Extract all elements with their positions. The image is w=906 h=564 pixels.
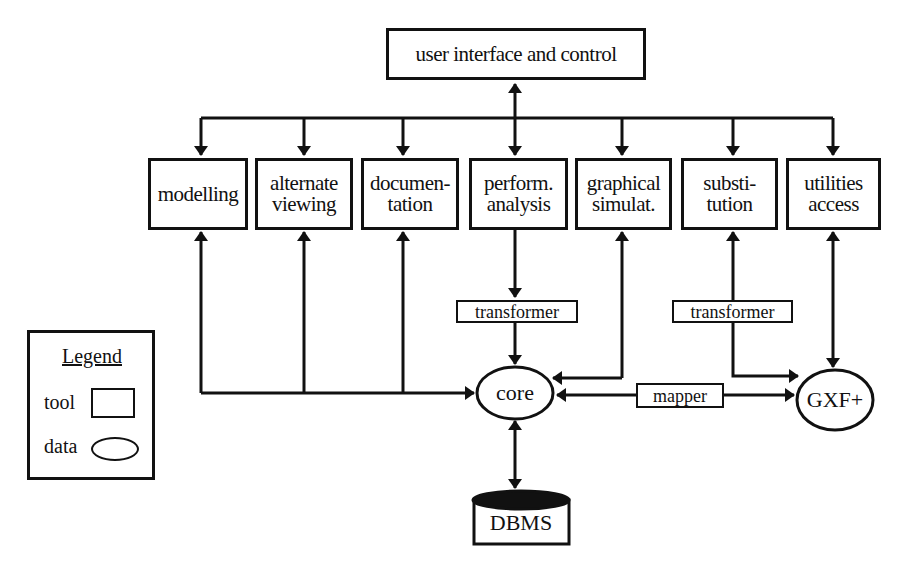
tool-modelling: modelling [148, 158, 248, 230]
legend-tool-swatch [91, 388, 135, 418]
tool-label: perform. [484, 173, 553, 194]
transformer-label: transformer [475, 303, 559, 321]
tool-label: tution [703, 194, 756, 215]
tool-label: substi- [703, 173, 756, 194]
tool-label: modelling [158, 184, 239, 205]
tool-label: access [804, 194, 863, 215]
gxf-data: GXF+ [797, 387, 873, 413]
legend: Legend tool data [27, 330, 155, 480]
tool-label: analysis [484, 194, 553, 215]
tool-substitution: substi-tution [681, 158, 778, 230]
core-data: core [477, 380, 553, 406]
gxf-label: GXF+ [807, 387, 863, 412]
legend-data-label: data [44, 435, 77, 458]
legend-title: Legend [62, 345, 122, 368]
tool-perform-analysis: perform.analysis [469, 158, 568, 230]
transformer-left: transformer [456, 300, 578, 323]
user-interface-label: user interface and control [416, 44, 617, 65]
tool-label: graphical [587, 173, 661, 194]
legend-tool-label: tool [44, 391, 75, 414]
tool-alternate-viewing: alternateviewing [255, 158, 353, 230]
tool-label: viewing [270, 194, 338, 215]
tool-graphical-simulat: graphicalsimulat. [575, 158, 672, 230]
tool-utilities-access: utilitiesaccess [786, 158, 881, 230]
legend-data-swatch [91, 437, 139, 461]
tool-label: tation [370, 194, 450, 215]
user-interface-and-control-box: user interface and control [386, 28, 646, 80]
transformer-label: transformer [691, 303, 775, 321]
mapper-label: mapper [653, 387, 707, 405]
mapper: mapper [636, 383, 724, 408]
dbms-label: DBMS [472, 510, 570, 536]
tool-label: simulat. [587, 194, 661, 215]
transformer-right: transformer [672, 300, 793, 323]
tool-documentation: documen-tation [361, 158, 459, 230]
tool-label: alternate [270, 173, 338, 194]
dbms-cylinder: DBMS [472, 490, 570, 546]
core-label: core [496, 380, 534, 405]
tool-label: documen- [370, 173, 450, 194]
tool-label: utilities [804, 173, 863, 194]
